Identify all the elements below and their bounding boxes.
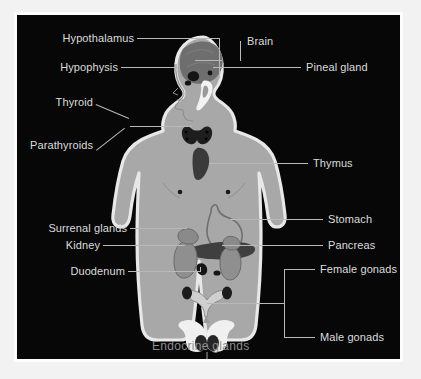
label-hypothalamus: Hypothalamus [17,32,134,44]
diagram-caption: Endocrine glands [152,339,250,353]
leader-brain-v [240,41,241,61]
leader-surrenal-glands [130,228,187,229]
pineal-gland-organ [208,71,213,76]
leader-female-gonads-arm [284,269,315,270]
leader-hypophysis [121,67,178,68]
parathyroid-3 [206,131,209,134]
leader-brain-h [195,60,222,61]
ovary-right [222,287,232,300]
leader-thymus [209,163,308,164]
parathyroid-2 [186,138,189,141]
nose-line [173,88,178,95]
surrenal-gland-left [178,229,198,244]
leader-hypothalamus-h [137,38,220,39]
label-thyroid: Thyroid [17,96,93,108]
pineal-gland-shape [208,71,213,76]
hypophysis-shape [185,80,191,85]
kidney-right-shape [220,247,241,280]
duodenum-shape-2 [214,270,221,275]
leader-thyroid-shared [130,126,192,127]
leader-gonads-bracket [284,269,285,337]
label-hypophysis: Hypophysis [17,61,118,73]
diagram-plate: Hypothalamus Hypophysis Thyroid Parathyr… [17,15,400,359]
leader-stomach [230,219,323,220]
label-thymus: Thymus [313,157,353,169]
label-surrenal-glands: Surrenal glands [17,222,127,234]
label-female-gonads: Female gonads [320,263,397,275]
leader-pancreas [222,245,323,246]
diagram-root: Hypothalamus Hypophysis Thyroid Parathyr… [0,0,421,379]
leader-male-gonads-arm [284,337,315,338]
parathyroid-4 [205,138,208,141]
kidney-left-shape [174,242,197,278]
ovary-left [182,287,192,300]
label-brain: Brain [247,35,273,47]
leader-duodenum-v [200,267,201,272]
label-male-gonads: Male gonads [320,331,384,343]
leader-kidney [103,245,185,246]
nipple-right [226,190,231,195]
label-parathyroids: Parathyroids [17,139,93,151]
leader-hypothalamus-v [219,38,220,78]
label-pancreas: Pancreas [328,239,375,251]
label-stomach: Stomach [328,213,372,225]
label-kidney: Kidney [17,239,100,251]
label-pineal-gland: Pineal gland [306,61,368,73]
label-duodenum: Duodenum [17,265,125,277]
hypophysis-organ [185,80,191,85]
surrenal-gland-right [223,236,240,250]
leader-gonads-stem [207,303,285,304]
leader-duodenum-h [128,271,201,272]
parathyroid-1 [185,131,188,134]
nipple-left [178,190,183,195]
leader-pineal-gland [213,67,301,68]
